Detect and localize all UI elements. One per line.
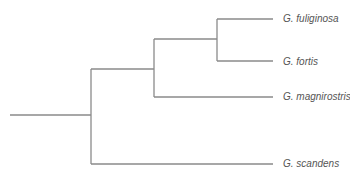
taxon-label-fuliginosa: G. fuliginosa bbox=[283, 13, 339, 25]
phylogenetic-tree: G. fuliginosa G. fortis G. magnirostris … bbox=[0, 0, 350, 181]
taxon-label-scandens: G. scandens bbox=[283, 158, 339, 170]
taxon-label-fortis: G. fortis bbox=[283, 56, 318, 68]
taxon-label-magnirostris: G. magnirostris bbox=[283, 91, 350, 103]
